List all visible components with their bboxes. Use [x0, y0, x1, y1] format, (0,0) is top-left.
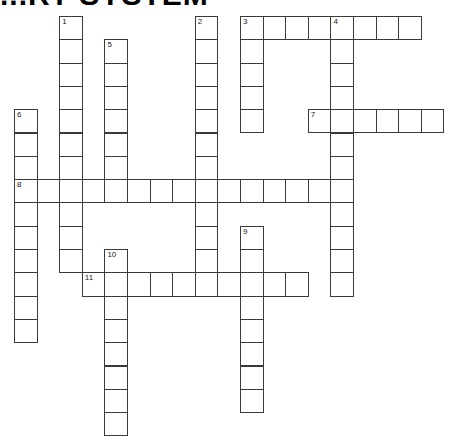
- crossword-cell[interactable]: [330, 86, 354, 110]
- crossword-cell[interactable]: [14, 133, 38, 157]
- crossword-cell[interactable]: [59, 63, 83, 87]
- crossword-cell[interactable]: [104, 342, 128, 366]
- crossword-cell[interactable]: 9: [240, 226, 264, 250]
- crossword-cell[interactable]: [240, 272, 264, 296]
- crossword-cell[interactable]: [104, 109, 128, 133]
- crossword-cell[interactable]: [330, 249, 354, 273]
- crossword-cell[interactable]: [195, 226, 219, 250]
- crossword-cell[interactable]: [240, 296, 264, 320]
- crossword-cell[interactable]: [398, 16, 422, 40]
- crossword-cell[interactable]: [104, 272, 128, 296]
- crossword-cell[interactable]: [330, 39, 354, 63]
- crossword-cell[interactable]: [172, 272, 196, 296]
- crossword-cell[interactable]: [104, 86, 128, 110]
- crossword-cell[interactable]: [330, 156, 354, 180]
- crossword-cell[interactable]: [195, 109, 219, 133]
- crossword-cell[interactable]: [285, 272, 309, 296]
- crossword-cell[interactable]: [195, 179, 219, 203]
- crossword-cell[interactable]: [104, 179, 128, 203]
- crossword-cell[interactable]: [150, 179, 174, 203]
- crossword-cell[interactable]: [353, 16, 377, 40]
- crossword-cell[interactable]: [240, 249, 264, 273]
- crossword-cell[interactable]: [330, 109, 354, 133]
- crossword-cell[interactable]: [127, 179, 151, 203]
- crossword-cell[interactable]: [240, 389, 264, 413]
- crossword-cell[interactable]: 1: [59, 16, 83, 40]
- crossword-cell[interactable]: [240, 39, 264, 63]
- crossword-cell[interactable]: [127, 272, 151, 296]
- crossword-cell[interactable]: 6: [14, 109, 38, 133]
- crossword-cell[interactable]: [195, 249, 219, 273]
- crossword-cell[interactable]: [14, 226, 38, 250]
- crossword-cell[interactable]: [59, 179, 83, 203]
- crossword-cell[interactable]: [59, 202, 83, 226]
- crossword-cell[interactable]: [59, 109, 83, 133]
- crossword-cell[interactable]: [308, 179, 332, 203]
- crossword-cell[interactable]: 4: [330, 16, 354, 40]
- crossword-cell[interactable]: [104, 156, 128, 180]
- crossword-cell[interactable]: [14, 202, 38, 226]
- crossword-cell[interactable]: [14, 319, 38, 343]
- crossword-cell[interactable]: [330, 63, 354, 87]
- crossword-cell[interactable]: [240, 63, 264, 87]
- crossword-cell[interactable]: [59, 133, 83, 157]
- crossword-cell[interactable]: [104, 366, 128, 390]
- crossword-cell[interactable]: [104, 389, 128, 413]
- crossword-cell[interactable]: [308, 16, 332, 40]
- crossword-cell[interactable]: [59, 39, 83, 63]
- crossword-cell[interactable]: [195, 133, 219, 157]
- crossword-cell[interactable]: [14, 272, 38, 296]
- crossword-cell[interactable]: [59, 226, 83, 250]
- crossword-cell[interactable]: [330, 272, 354, 296]
- crossword-cell[interactable]: 5: [104, 39, 128, 63]
- crossword-cell[interactable]: [104, 412, 128, 436]
- crossword-cell[interactable]: [14, 249, 38, 273]
- crossword-cell[interactable]: [195, 156, 219, 180]
- crossword-cell[interactable]: [263, 179, 287, 203]
- crossword-cell[interactable]: [263, 272, 287, 296]
- crossword-cell[interactable]: [104, 296, 128, 320]
- crossword-cell[interactable]: 10: [104, 249, 128, 273]
- crossword-cell[interactable]: [150, 272, 174, 296]
- crossword-cell[interactable]: [240, 86, 264, 110]
- crossword-cell[interactable]: [240, 342, 264, 366]
- crossword-cell[interactable]: [330, 179, 354, 203]
- crossword-cell[interactable]: [240, 366, 264, 390]
- crossword-cell[interactable]: [59, 86, 83, 110]
- crossword-cell[interactable]: [376, 109, 400, 133]
- crossword-cell[interactable]: [330, 202, 354, 226]
- crossword-cell[interactable]: [172, 179, 196, 203]
- crossword-cell[interactable]: [104, 133, 128, 157]
- crossword-cell[interactable]: [330, 226, 354, 250]
- crossword-cell[interactable]: 2: [195, 16, 219, 40]
- crossword-cell[interactable]: [217, 272, 241, 296]
- crossword-cell[interactable]: [240, 109, 264, 133]
- crossword-cell[interactable]: [195, 202, 219, 226]
- crossword-cell[interactable]: [330, 133, 354, 157]
- crossword-cell[interactable]: 11: [82, 272, 106, 296]
- crossword-cell[interactable]: [104, 63, 128, 87]
- crossword-cell[interactable]: [195, 63, 219, 87]
- crossword-cell[interactable]: [285, 179, 309, 203]
- crossword-cell[interactable]: [59, 156, 83, 180]
- crossword-cell[interactable]: [421, 109, 445, 133]
- crossword-cell[interactable]: [14, 296, 38, 320]
- crossword-cell[interactable]: [37, 179, 61, 203]
- crossword-cell[interactable]: [353, 109, 377, 133]
- crossword-cell[interactable]: [240, 319, 264, 343]
- crossword-cell[interactable]: [82, 179, 106, 203]
- crossword-cell[interactable]: [14, 156, 38, 180]
- crossword-cell[interactable]: [263, 16, 287, 40]
- crossword-cell[interactable]: [376, 16, 400, 40]
- crossword-cell[interactable]: [195, 86, 219, 110]
- crossword-cell[interactable]: 7: [308, 109, 332, 133]
- crossword-cell[interactable]: [195, 272, 219, 296]
- crossword-cell[interactable]: [104, 319, 128, 343]
- crossword-cell[interactable]: [195, 39, 219, 63]
- crossword-cell[interactable]: [285, 16, 309, 40]
- crossword-cell[interactable]: [217, 179, 241, 203]
- crossword-cell[interactable]: [59, 249, 83, 273]
- crossword-cell[interactable]: 3: [240, 16, 264, 40]
- crossword-cell[interactable]: 8: [14, 179, 38, 203]
- crossword-cell[interactable]: [240, 179, 264, 203]
